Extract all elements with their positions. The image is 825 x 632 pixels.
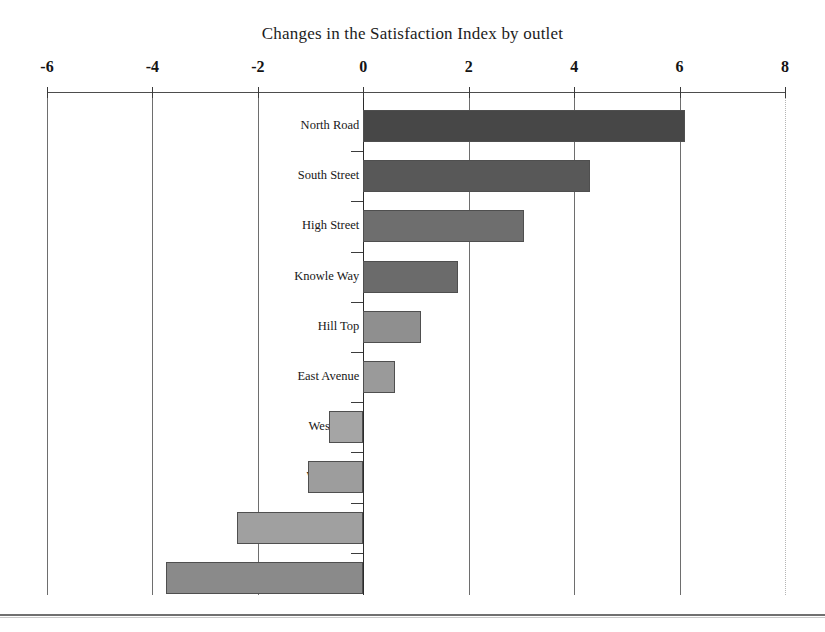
x-tick-label-neg6: -6 bbox=[40, 58, 53, 76]
x-tick-label-8: 8 bbox=[781, 58, 789, 76]
bar-row bbox=[47, 261, 785, 293]
bar-row bbox=[47, 361, 785, 393]
x-tick-label-neg4: -4 bbox=[146, 58, 159, 76]
bar-wood-end[interactable] bbox=[308, 461, 363, 493]
bar-row bbox=[47, 411, 785, 443]
category-tick-mark bbox=[351, 402, 363, 403]
bar-rows: North RoadSouth StreetHigh StreetKnowle … bbox=[47, 92, 785, 595]
x-axis-tick-labels: -6-4-202468 bbox=[0, 58, 825, 80]
bar-high-street[interactable] bbox=[363, 210, 524, 242]
bar-row bbox=[47, 311, 785, 343]
bar-south-street[interactable] bbox=[363, 160, 590, 192]
bar-east-avenue[interactable] bbox=[363, 361, 395, 393]
bar-chart: Changes in the Satisfaction Index by out… bbox=[0, 0, 825, 632]
category-tick-mark bbox=[351, 302, 363, 303]
category-tick-mark bbox=[351, 201, 363, 202]
gridline-8 bbox=[785, 92, 786, 595]
x-tick-label-6: 6 bbox=[676, 58, 684, 76]
chart-title: Changes in the Satisfaction Index by out… bbox=[0, 24, 825, 44]
bar-main-street[interactable] bbox=[237, 512, 364, 544]
category-tick-mark bbox=[351, 151, 363, 152]
category-tick-mark bbox=[351, 553, 363, 554]
footer-rule-secondary bbox=[0, 617, 825, 618]
x-tick-label-2: 2 bbox=[465, 58, 473, 76]
x-tick-label-neg2: -2 bbox=[251, 58, 264, 76]
bar-riverbank-walk[interactable] bbox=[166, 562, 364, 594]
bar-row bbox=[47, 461, 785, 493]
category-tick-mark bbox=[351, 252, 363, 253]
bar-row bbox=[47, 512, 785, 544]
bar-row bbox=[47, 110, 785, 142]
plot-area: North RoadSouth StreetHigh StreetKnowle … bbox=[47, 92, 785, 595]
bar-knowle-way[interactable] bbox=[363, 261, 458, 293]
footer-rule bbox=[0, 614, 825, 616]
bar-row bbox=[47, 210, 785, 242]
category-tick-mark bbox=[351, 352, 363, 353]
category-tick-mark bbox=[351, 503, 363, 504]
bar-hill-top[interactable] bbox=[363, 311, 421, 343]
bar-west-park[interactable] bbox=[329, 411, 363, 443]
x-tick-label-0: 0 bbox=[359, 58, 367, 76]
bar-north-road[interactable] bbox=[363, 110, 685, 142]
x-tick-mark-8 bbox=[785, 87, 786, 98]
bar-row bbox=[47, 562, 785, 594]
bar-row bbox=[47, 160, 785, 192]
x-tick-label-4: 4 bbox=[570, 58, 578, 76]
category-tick-mark bbox=[351, 452, 363, 453]
